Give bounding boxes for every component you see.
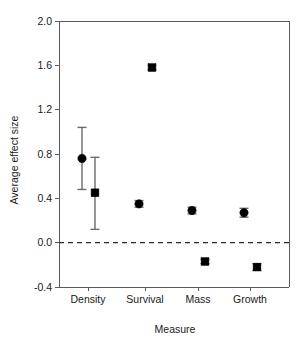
x-axis-title: Measure [155,323,196,335]
y-tick-label: 0.8 [37,148,52,160]
data-point-growth-circle [240,208,249,217]
x-tick-label-survival: Survival [126,293,163,305]
data-point-mass-circle [188,206,197,214]
y-tick-label: 1.2 [37,103,52,115]
marker-square [201,258,209,266]
x-tick-label-mass: Mass [185,293,210,305]
data-point-survival-circle [135,200,144,208]
marker-square [253,263,261,271]
marker-circle [135,200,143,208]
data-point-growth-square [253,263,262,271]
data-point-density-circle [78,127,87,189]
x-tick-label-growth: Growth [233,293,267,305]
data-point-mass-square [201,258,210,266]
chart-container: -0.40.00.40.81.21.62.0 DensitySurvivalMa… [0,0,299,343]
x-axis-tick-labels: DensitySurvivalMassGrowth [70,293,267,305]
marker-square [91,189,99,197]
y-tick-label: 0.0 [37,236,52,248]
marker-circle [78,154,86,162]
marker-square [148,64,156,72]
data-point-survival-square [148,64,157,72]
marker-circle [240,209,248,217]
x-tick-label-density: Density [70,293,106,305]
chart-axes [55,21,289,291]
marker-circle [188,206,196,214]
y-tick-label: 0.4 [37,192,52,204]
y-axis-title: Average effect size [8,115,20,204]
y-axis-tick-labels: -0.40.00.40.81.21.62.0 [34,15,52,293]
y-tick-label: -0.4 [34,281,52,293]
y-tick-label: 1.6 [37,59,52,71]
effect-size-scatter-chart: -0.40.00.40.81.21.62.0 DensitySurvivalMa… [0,0,299,343]
y-tick-label: 2.0 [37,15,52,27]
data-point-density-square [91,157,100,229]
chart-data-points [78,64,262,271]
